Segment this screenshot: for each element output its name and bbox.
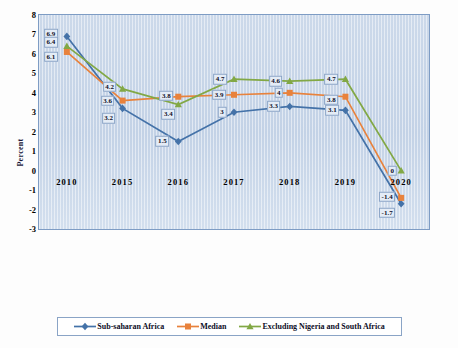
y-axis-tick: -2 xyxy=(18,205,36,215)
y-axis-tick: 8 xyxy=(18,10,36,20)
data-label: -1.7 xyxy=(379,207,395,218)
x-axis-tick: 2020 xyxy=(390,177,411,187)
data-label: 3.6 xyxy=(101,95,115,106)
legend-marker-icon xyxy=(74,321,96,332)
data-label: 3.1 xyxy=(326,105,340,116)
y-axis-tick: -3 xyxy=(18,224,36,234)
y-axis-tick: 4 xyxy=(18,88,36,98)
data-point-marker xyxy=(185,324,191,330)
data-label: 3 xyxy=(218,107,227,118)
data-label: 6.1 xyxy=(44,52,58,63)
y-axis-tick: -1 xyxy=(18,185,36,195)
data-label: 3.4 xyxy=(161,109,175,120)
data-label: 6.4 xyxy=(44,37,58,48)
data-label: 4.7 xyxy=(213,74,227,85)
data-label: 3.8 xyxy=(325,94,339,105)
data-label: 0 xyxy=(388,165,397,176)
data-label: 3.3 xyxy=(267,101,281,112)
legend-item[interactable]: Median xyxy=(177,321,226,332)
legend-label: Excluding Nigeria and South Africa xyxy=(262,322,384,331)
legend-marker-icon xyxy=(239,321,261,332)
data-label: 4.2 xyxy=(103,82,117,93)
y-axis-tick: 0 xyxy=(18,166,36,176)
y-axis-tick: 7 xyxy=(18,29,36,39)
x-axis-tick: 2016 xyxy=(168,177,189,187)
legend-item[interactable]: Sub-saharan Africa xyxy=(74,321,164,332)
data-label: -1.4 xyxy=(379,192,395,203)
x-axis-tick: 2017 xyxy=(223,177,244,187)
data-label: 4 xyxy=(274,88,283,99)
data-label: 3.9 xyxy=(212,90,226,101)
y-axis-tick: 1 xyxy=(18,146,36,156)
x-axis-tick: 2015 xyxy=(112,177,133,187)
x-axis-tick: 2010 xyxy=(56,177,77,187)
data-label: 1.5 xyxy=(155,136,169,147)
legend-marker-icon xyxy=(177,321,199,332)
line-chart: Percent 876543210-1-2-3 2010201520162017… xyxy=(0,0,458,348)
y-axis-tick: 2 xyxy=(18,127,36,137)
y-axis-tick: 5 xyxy=(18,68,36,78)
x-axis-tick-labels: 2010201520162017201820192020 xyxy=(38,0,430,216)
data-label: 4.6 xyxy=(269,76,283,87)
legend-label: Sub-saharan Africa xyxy=(97,322,164,331)
y-axis-tick-labels: 876543210-1-2-3 xyxy=(18,14,36,230)
data-label: 3.8 xyxy=(159,90,173,101)
x-axis-tick: 2019 xyxy=(335,177,356,187)
y-axis-tick: 6 xyxy=(18,49,36,59)
x-axis-tick: 2018 xyxy=(279,177,300,187)
legend-item[interactable]: Excluding Nigeria and South Africa xyxy=(239,321,384,332)
y-axis-tick: 3 xyxy=(18,107,36,117)
data-label: 3.2 xyxy=(102,113,116,124)
chart-legend: Sub-saharan AfricaMedianExcluding Nigeri… xyxy=(57,317,402,336)
legend-label: Median xyxy=(200,322,226,331)
data-point-marker xyxy=(82,323,89,331)
data-label: 4.7 xyxy=(325,74,339,85)
